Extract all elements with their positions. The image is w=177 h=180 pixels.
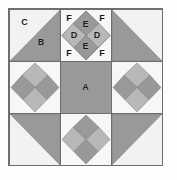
unit-bottom-right (111, 113, 163, 166)
unit-top-right (111, 9, 163, 62)
unit-bottom-center (60, 113, 112, 166)
unit-middle-right (111, 61, 163, 114)
unit-center-square: A (60, 61, 112, 114)
unit-top-center: F F F F E E D D (60, 9, 112, 62)
unit-bottom-left (9, 113, 61, 166)
quilt-block-diagram: C B F F F (0, 0, 177, 180)
unit-middle-left (9, 61, 61, 114)
block-grid: C B F F F (9, 9, 162, 165)
unit-top-left: C B (9, 9, 61, 62)
